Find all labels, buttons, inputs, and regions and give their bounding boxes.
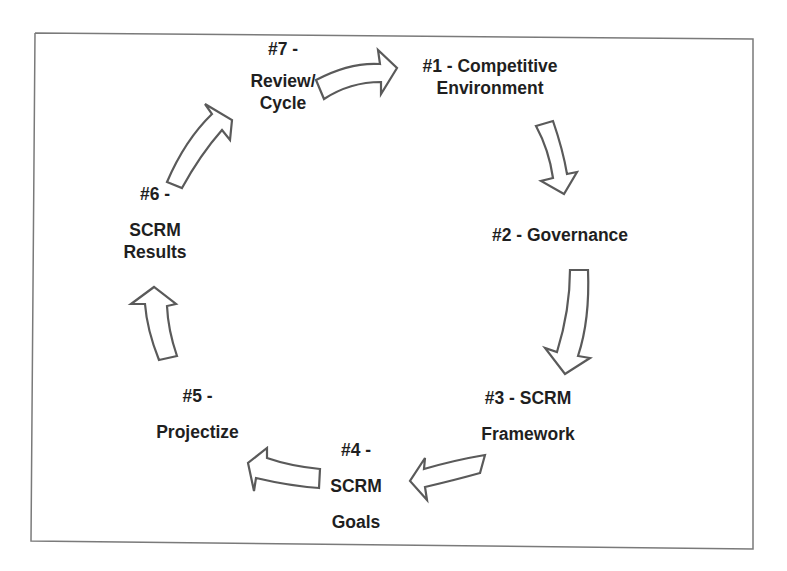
step-5-title: Projectize bbox=[140, 421, 255, 443]
arrow-5-to-6-icon bbox=[131, 287, 177, 360]
step-4-label: #4 - SCRM Goals bbox=[322, 439, 390, 533]
step-6-title-line2: Results bbox=[110, 241, 200, 263]
arrow-3-to-4-icon bbox=[410, 455, 485, 500]
step-2-title: #2 - Governance bbox=[485, 224, 635, 246]
step-3-title-line2: Framework bbox=[463, 423, 593, 445]
step-1-title-line1: #1 - Competitive bbox=[405, 55, 575, 77]
step-6-label: #6 - SCRM Results bbox=[110, 183, 200, 263]
cycle-arrows bbox=[0, 0, 787, 571]
step-2-label: #2 - Governance bbox=[485, 224, 635, 246]
step-7-title-line2: Cycle bbox=[238, 92, 328, 114]
step-7-title-line1: Review/ bbox=[238, 70, 328, 92]
step-7-number: #7 - bbox=[238, 38, 328, 60]
arrow-4-to-5-icon bbox=[248, 448, 320, 491]
step-4-number: #4 - bbox=[322, 439, 390, 461]
step-4-title-line2: Goals bbox=[322, 511, 390, 533]
step-3-label: #3 - SCRM Framework bbox=[463, 387, 593, 445]
step-5-number: #5 - bbox=[140, 385, 255, 407]
step-4-title-line1: SCRM bbox=[322, 475, 390, 497]
arrow-1-to-2-icon bbox=[536, 121, 577, 194]
step-1-label: #1 - Competitive Environment bbox=[405, 55, 575, 99]
step-6-title-line1: SCRM bbox=[110, 219, 200, 241]
step-5-label: #5 - Projectize bbox=[140, 385, 255, 443]
arrow-2-to-3-icon bbox=[545, 270, 590, 374]
step-6-number: #6 - bbox=[110, 183, 200, 205]
step-3-title-line1: #3 - SCRM bbox=[463, 387, 593, 409]
step-7-label: #7 - Review/ Cycle bbox=[238, 38, 328, 114]
step-1-title-line2: Environment bbox=[405, 77, 575, 99]
arrow-6-to-7-icon bbox=[167, 104, 232, 188]
arrow-7-to-1-icon bbox=[316, 50, 397, 99]
